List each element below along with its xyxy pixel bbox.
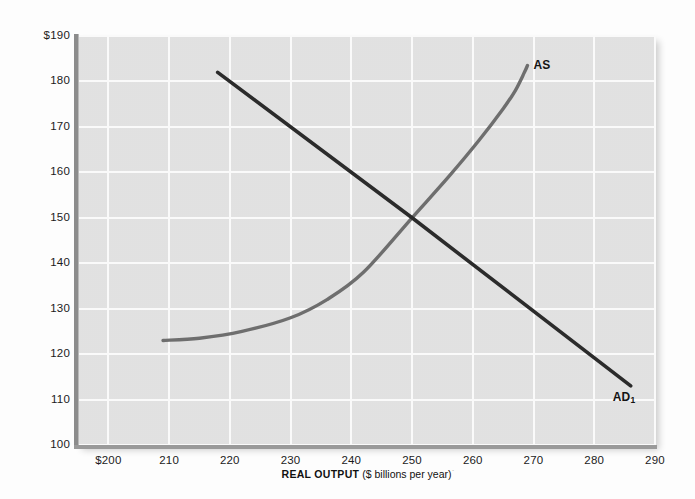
x-tick-label-250: 250	[382, 454, 442, 466]
ad-as-chart-figure: $190180170160150140130120110100 $2002102…	[0, 0, 695, 499]
x-tick-label-240: 240	[321, 454, 381, 466]
x-tick-label-220: 220	[200, 454, 260, 466]
plot-area	[78, 36, 655, 445]
y-tick-label-120: 120	[10, 347, 70, 359]
y-tick-label-100: 100	[10, 438, 70, 450]
y-tick-label-140: 140	[10, 256, 70, 268]
x-axis-title: REAL OUTPUT ($ billions per year)	[78, 468, 655, 480]
y-tick-label-180: 180	[10, 74, 70, 86]
curves-layer	[78, 36, 655, 445]
y-tick-label-190: $190	[10, 29, 70, 41]
x-axis-title-bold: REAL OUTPUT	[282, 468, 360, 480]
ad1-curve-label: AD1	[613, 390, 636, 404]
x-tick-label-200: $200	[78, 454, 138, 466]
y-tick-label-130: 130	[10, 302, 70, 314]
as-curve-label: AS	[533, 58, 550, 72]
y-axis-line	[74, 34, 79, 447]
x-tick-label-270: 270	[504, 454, 564, 466]
ad-curve-label-text: AD	[613, 390, 631, 404]
x-tick-label-280: 280	[564, 454, 624, 466]
x-tick-label-210: 210	[139, 454, 199, 466]
stray-print-mark: ´	[452, 468, 457, 473]
y-tick-label-160: 160	[10, 165, 70, 177]
x-tick-label-290: 290	[625, 454, 685, 466]
x-tick-label-260: 260	[443, 454, 503, 466]
x-tick-label-230: 230	[261, 454, 321, 466]
x-axis-title-unit: ($ billions per year)	[362, 468, 451, 480]
ad1-curve	[218, 72, 631, 386]
y-tick-label-170: 170	[10, 120, 70, 132]
as-curve-label-text: AS	[533, 58, 550, 72]
as-curve	[163, 66, 527, 341]
y-tick-label-110: 110	[10, 393, 70, 405]
y-tick-label-150: 150	[10, 211, 70, 223]
x-axis-line	[74, 445, 657, 449]
ad-curve-label-subscript: 1	[630, 395, 635, 405]
